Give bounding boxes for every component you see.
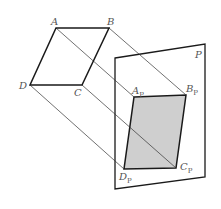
projected-parallelogram <box>124 95 186 169</box>
label-dp: DP <box>119 172 132 185</box>
label-plane-p: P <box>195 50 202 60</box>
original-parallelogram <box>30 28 109 85</box>
projection-diagram <box>0 0 221 209</box>
label-c: C <box>74 88 82 98</box>
label-ap: AP <box>132 86 144 99</box>
label-d: D <box>19 81 27 91</box>
label-b: B <box>107 17 114 27</box>
label-cp: CP <box>180 162 192 175</box>
label-a: A <box>51 17 58 27</box>
label-bp: BP <box>186 84 198 97</box>
